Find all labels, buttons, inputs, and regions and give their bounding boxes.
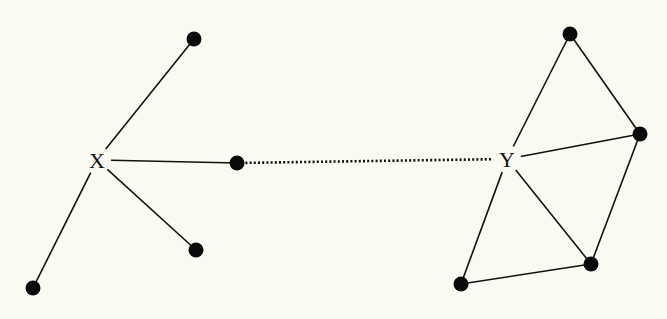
node-b4 — [454, 277, 469, 292]
hub-label-y: Y — [499, 147, 515, 172]
edges-layer — [33, 34, 640, 288]
node-b1 — [563, 27, 578, 42]
graph-diagram: X Y — [0, 0, 667, 319]
edge-b1-b2 — [570, 34, 640, 134]
node-a4 — [26, 281, 41, 296]
edge-X-a4 — [33, 173, 91, 288]
node-a3 — [189, 243, 204, 258]
node-b3 — [584, 257, 599, 272]
hub-labels-layer: X Y — [89, 147, 515, 173]
edge-X-a1 — [106, 39, 194, 149]
edge-Y-b2 — [521, 134, 640, 156]
node-a1 — [187, 32, 202, 47]
edge-b2-b3 — [591, 134, 640, 264]
bridge-edge-a2-Y — [237, 159, 493, 163]
hub-label-x: X — [89, 148, 105, 173]
node-b2 — [633, 127, 648, 142]
edge-Y-b1 — [513, 34, 570, 146]
edge-b3-b4 — [461, 264, 591, 284]
edge-X-a2 — [111, 160, 237, 163]
edge-Y-b4 — [461, 172, 502, 284]
node-a2 — [230, 156, 245, 171]
edge-X-a3 — [107, 169, 196, 250]
edge-Y-b3 — [516, 170, 591, 264]
